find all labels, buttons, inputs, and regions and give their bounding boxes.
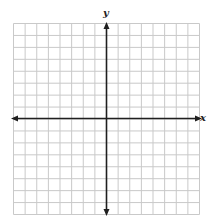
y-axis-label: y bbox=[103, 8, 109, 18]
axes bbox=[11, 22, 202, 216]
x-axis-left-arrow-icon bbox=[11, 116, 18, 122]
coordinate-plane bbox=[0, 0, 210, 223]
x-axis-label: x bbox=[200, 113, 206, 123]
